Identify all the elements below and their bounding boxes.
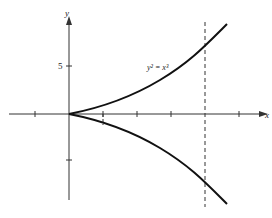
curve-lower-branch (69, 114, 227, 204)
cusp-curve-plot: y x 5 y² = x³ (0, 0, 272, 218)
x-axis-label: x (264, 110, 269, 120)
y-axis-label: y (64, 8, 69, 18)
y-tick-label-5: 5 (58, 61, 63, 71)
axes (9, 16, 268, 200)
curve-equation-label: y² = x³ (146, 63, 169, 72)
